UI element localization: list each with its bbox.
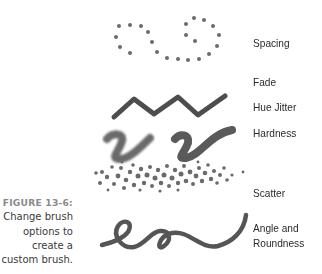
angle-roundness-stroke-icon	[102, 215, 246, 247]
figure-caption: FIGURE 13-6: Change brush options to cre…	[0, 196, 73, 267]
caption-line: create a	[0, 239, 73, 253]
scatter-stroke-icon	[94, 161, 244, 193]
hue-jitter-label: Hue Jitter	[253, 100, 296, 114]
spacing-stroke-icon	[114, 16, 221, 62]
caption-line: Change brush	[0, 210, 73, 224]
hue-jitter-stroke-icon	[114, 96, 225, 117]
roundness-label: Roundness	[253, 236, 304, 250]
hardness-stroke-icon	[107, 130, 232, 159]
fade-label: Fade	[253, 75, 276, 89]
caption-line: options to	[0, 225, 73, 239]
angle-label: Angle and	[253, 221, 299, 235]
figure-number: FIGURE 13-6:	[0, 196, 73, 210]
scatter-label: Scatter	[253, 186, 285, 200]
caption-line: custom brush.	[0, 253, 73, 267]
spacing-label: Spacing	[253, 36, 290, 50]
hardness-label: Hardness	[253, 126, 296, 140]
